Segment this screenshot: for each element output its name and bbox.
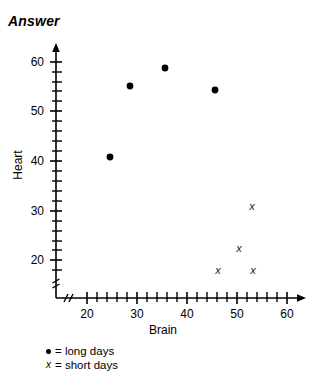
x-axis-title: Brain: [149, 323, 177, 337]
x-axis: [56, 294, 306, 302]
y-tick-label: 60: [31, 55, 45, 69]
y-tick-label: 20: [31, 253, 45, 267]
scatter-plot: 60 50 40 30 20 20 30 40 50 60 Brain Hear…: [0, 0, 320, 381]
x-tick-labels: 20 30 40 50 60: [80, 307, 294, 321]
x-tick-label: 40: [180, 307, 194, 321]
x-tick-label: 50: [230, 307, 244, 321]
legend-item-long-days: = long days: [46, 344, 118, 358]
data-point-x: x: [235, 242, 242, 254]
x-tick-label: 60: [280, 307, 294, 321]
data-point-dot: [162, 65, 169, 72]
data-point-dot: [107, 154, 114, 161]
data-point-x: x: [214, 264, 221, 276]
legend: = long days x = short days: [46, 344, 118, 372]
x-tick-label: 20: [80, 307, 94, 321]
chart-canvas: Answer: [0, 0, 320, 381]
data-point-x: x: [248, 200, 255, 212]
series-short-days: x x x x: [214, 200, 256, 276]
y-tick-labels: 60 50 40 30 20: [31, 55, 45, 267]
x-tick-label: 30: [130, 307, 144, 321]
data-point-x: x: [249, 264, 256, 276]
data-point-dot: [212, 87, 219, 94]
data-point-dot: [127, 83, 134, 90]
x-axis-ticks: [87, 292, 287, 304]
legend-label-long-days: = long days: [55, 344, 114, 358]
legend-dot-icon: [46, 349, 51, 354]
legend-label-short-days: = short days: [55, 358, 118, 372]
y-tick-label: 30: [31, 204, 45, 218]
y-axis-title: Heart: [11, 150, 25, 180]
legend-x-icon: x: [46, 358, 51, 372]
y-tick-label: 40: [31, 154, 45, 168]
series-long-days: [107, 65, 219, 161]
legend-item-short-days: x = short days: [46, 358, 118, 372]
y-tick-label: 50: [31, 104, 45, 118]
